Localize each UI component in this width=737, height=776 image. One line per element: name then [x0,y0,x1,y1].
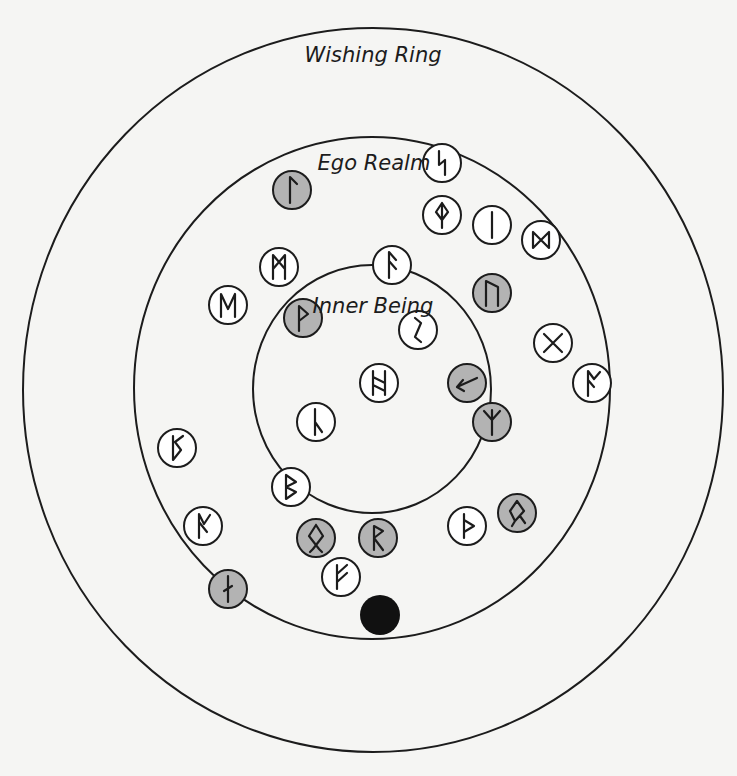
rune-laguz [273,171,311,209]
diagram-canvas: Wishing RingEgo RealmInner Being [0,0,737,776]
rune-raido [359,519,397,557]
rune-disc [448,507,486,545]
shaded-rune-disc [473,274,511,312]
rune-mannaz [260,248,298,286]
rune-hagalaz [360,364,398,402]
rune-fehu [322,558,360,596]
rune-disc [272,468,310,506]
rune-dagaz [522,221,560,259]
rune-algiz [473,403,511,441]
rune-os [573,364,611,402]
rune-perthro [158,429,196,467]
rune-disc [260,248,298,286]
rune-disc [158,429,196,467]
rune-berkano [272,468,310,506]
rune-disc [360,364,398,402]
rune-ingwaz [498,494,536,532]
rune-othala-diamond [423,196,461,234]
ego-realm-label: Ego Realm [318,151,431,175]
rune-diagram: Wishing RingEgo RealmInner Being [0,0,737,776]
shaded-rune-disc [498,494,536,532]
rune-isa [473,206,511,244]
rune-ansuz [373,246,411,284]
shaded-rune-disc [273,171,311,209]
rune-kenaz-arrow [448,364,486,402]
wishing-ring-label: Wishing Ring [304,43,441,67]
inner-being-label: Inner Being [313,294,434,318]
rune-laguz-reversed [297,403,335,441]
rune-ehwaz [209,286,247,324]
rune-gebo [534,324,572,362]
rune-uruz [473,274,511,312]
rune-nauthiz [209,570,247,608]
center-black-dot [360,595,400,635]
shaded-rune-disc [359,519,397,557]
rune-disc [209,286,247,324]
rune-ear [184,507,222,545]
rune-thurisaz [448,507,486,545]
rune-othala [297,519,335,557]
